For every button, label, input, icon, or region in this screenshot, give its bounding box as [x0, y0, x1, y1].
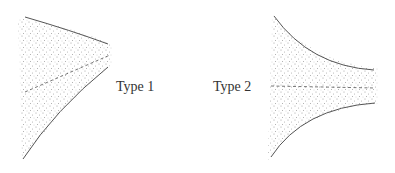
type1-figure: [18, 17, 112, 160]
type1-label: Type 1: [116, 79, 154, 95]
diagram-canvas: [0, 0, 395, 173]
type2-label: Type 2: [213, 79, 251, 95]
type2-figure: [268, 14, 378, 160]
